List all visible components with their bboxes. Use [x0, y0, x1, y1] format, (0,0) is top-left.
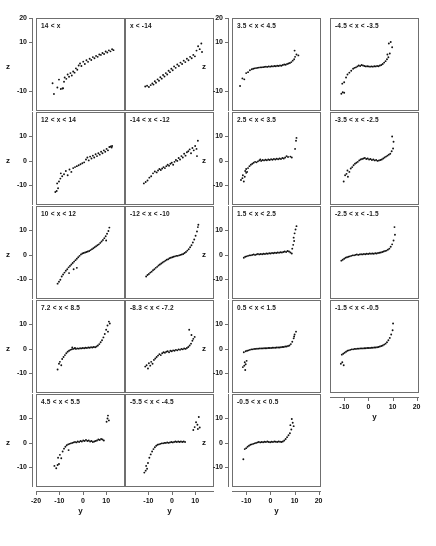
panel-p-r1c1: 14 < x [36, 18, 125, 111]
y-axis-line-c1-r1 [32, 18, 33, 111]
panel-label-p-r1c3: 3.5 < x < 4.5 [237, 22, 276, 30]
y-axis-line-c1-r3 [32, 206, 33, 299]
y-tick-mark [29, 279, 32, 280]
y-tick-mark [29, 418, 32, 419]
y-tick-mark [225, 18, 228, 19]
panel-p-r1c3: 3.5 < x < 4.5 [232, 18, 321, 111]
y-tick-mark [225, 418, 228, 419]
x-tick-label: 20 [403, 403, 431, 411]
panel-p-r4c4: -1.5 < x < -0.5 [330, 300, 419, 393]
coplot-figure: 14 < xx < -143.5 < x < 4.5-4.5 < x < -3.… [0, 0, 436, 546]
y-tick-mark [225, 467, 228, 468]
scatter-canvas-p-r1c3 [233, 19, 320, 110]
panel-p-r4c3: 0.5 < x < 1.5 [232, 300, 321, 393]
x-tick-label: 20 [305, 497, 333, 505]
y-axis-line-c3-r3 [228, 206, 229, 299]
panel-p-r5c3: -0.5 < x < 0.5 [232, 394, 321, 487]
y-tick-label: -10 [198, 463, 223, 471]
axis-label-z: z [6, 439, 10, 447]
y-tick-mark [225, 42, 228, 43]
scatter-canvas-p-r4c1 [37, 301, 124, 392]
scatter-canvas-p-r3c1 [37, 207, 124, 298]
x-tick-mark [368, 398, 369, 401]
y-tick-mark [225, 136, 228, 137]
y-tick-mark [29, 91, 32, 92]
panel-p-r4c1: 7.2 < x < 8.5 [36, 300, 125, 393]
scatter-canvas-p-r3c4 [331, 207, 418, 298]
panel-p-r2c4: -3.5 < x < -2.5 [330, 112, 419, 205]
y-tick-mark [225, 91, 228, 92]
axis-label-y: y [267, 507, 287, 515]
axis-label-z: z [202, 345, 206, 353]
x-tick-mark [83, 492, 84, 495]
y-axis-line-c3-r5 [228, 394, 229, 487]
x-tick-mark [36, 492, 37, 495]
panel-p-r3c3: 1.5 < x < 2.5 [232, 206, 321, 299]
y-tick-mark [29, 18, 32, 19]
scatter-canvas-p-r3c3 [233, 207, 320, 298]
panel-label-p-r5c2: -5.5 < x < -4.5 [130, 398, 174, 406]
y-axis-line-c1-r2 [32, 112, 33, 205]
scatter-canvas-p-r4c3 [233, 301, 320, 392]
axis-label-z: z [202, 63, 206, 71]
x-tick-label: 10 [181, 497, 209, 505]
x-tick-mark [319, 492, 320, 495]
panel-p-r2c3: 2.5 < x < 3.5 [232, 112, 321, 205]
panel-label-p-r2c4: -3.5 < x < -2.5 [335, 116, 379, 124]
y-tick-label: 10 [198, 414, 223, 422]
axis-label-y: y [71, 507, 91, 515]
y-tick-label: -10 [2, 181, 27, 189]
y-tick-mark [225, 161, 228, 162]
x-tick-mark [393, 398, 394, 401]
panel-label-p-r5c3: -0.5 < x < 0.5 [237, 398, 278, 406]
x-axis-line-c2 [125, 491, 214, 492]
scatter-canvas-p-r1c1 [37, 19, 124, 110]
y-tick-mark [29, 373, 32, 374]
y-tick-label: 10 [2, 132, 27, 140]
axis-label-z: z [6, 251, 10, 259]
panel-p-r3c1: 10 < x < 12 [36, 206, 125, 299]
y-tick-label: -10 [2, 463, 27, 471]
y-tick-label: 10 [2, 38, 27, 46]
y-tick-label: 10 [2, 414, 27, 422]
x-tick-mark [172, 492, 173, 495]
y-tick-label: 10 [198, 132, 223, 140]
x-axis-line-c1 [36, 491, 125, 492]
axis-label-z: z [6, 157, 10, 165]
y-tick-mark [225, 443, 228, 444]
y-axis-line-c1-r4 [32, 300, 33, 393]
panel-label-p-r2c1: 12 < x < 14 [41, 116, 76, 124]
y-tick-label: 10 [2, 320, 27, 328]
y-tick-mark [29, 324, 32, 325]
y-tick-mark [29, 443, 32, 444]
y-tick-label: -10 [198, 87, 223, 95]
y-axis-line-c1-r5 [32, 394, 33, 487]
y-tick-label: -10 [2, 369, 27, 377]
y-tick-mark [225, 373, 228, 374]
y-tick-mark [225, 230, 228, 231]
x-tick-mark [344, 398, 345, 401]
x-tick-mark [270, 492, 271, 495]
axis-label-z: z [202, 251, 206, 259]
panel-p-r1c4: -4.5 < x < -3.5 [330, 18, 419, 111]
y-axis-line-c3-r4 [228, 300, 229, 393]
y-axis-line-c3-r1 [228, 18, 229, 111]
panel-label-p-r3c2: -12 < x < -10 [130, 210, 170, 218]
y-axis-line-c3-r2 [228, 112, 229, 205]
x-tick-mark [59, 492, 60, 495]
x-tick-mark [246, 492, 247, 495]
y-tick-label: -10 [2, 87, 27, 95]
scatter-canvas-p-r5c3 [233, 395, 320, 486]
panel-p-r3c4: -2.5 < x < -1.5 [330, 206, 419, 299]
y-tick-label: 10 [198, 320, 223, 328]
y-tick-label: 10 [198, 38, 223, 46]
panel-label-p-r1c2: x < -14 [130, 22, 152, 30]
x-tick-mark [195, 492, 196, 495]
y-tick-mark [29, 185, 32, 186]
scatter-canvas-p-r5c1 [37, 395, 124, 486]
panel-p-r5c1: 4.5 < x < 5.5 [36, 394, 125, 487]
y-tick-mark [29, 349, 32, 350]
panel-label-p-r2c3: 2.5 < x < 3.5 [237, 116, 276, 124]
axis-label-z: z [202, 439, 206, 447]
scatter-canvas-p-r2c3 [233, 113, 320, 204]
